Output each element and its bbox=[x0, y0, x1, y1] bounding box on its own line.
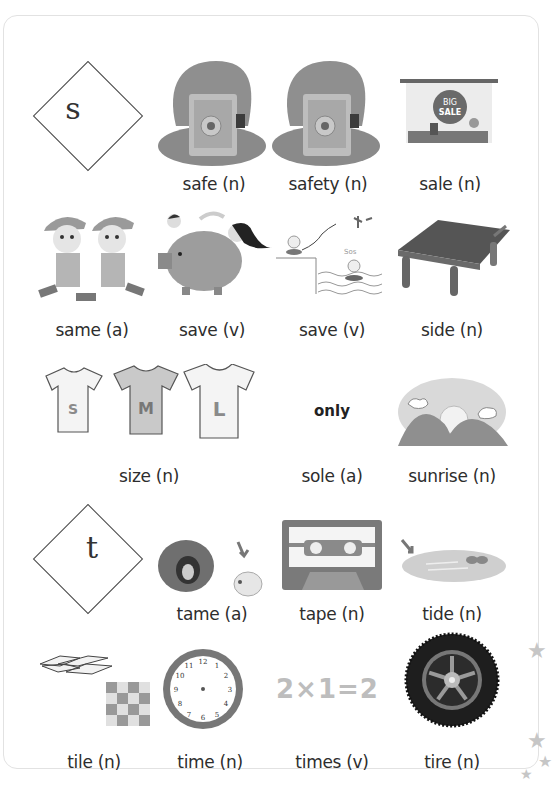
sole-hint-text: only bbox=[314, 402, 350, 420]
word-label: sale (n) bbox=[390, 174, 510, 194]
piggy-bank-icon bbox=[152, 209, 272, 299]
lion-to-sheep-icon bbox=[156, 536, 276, 606]
cassette-tape-icon bbox=[282, 520, 386, 594]
word-label: side (n) bbox=[392, 320, 512, 340]
safe-icon bbox=[156, 56, 268, 168]
svg-text:S: S bbox=[68, 401, 78, 417]
word-item-tile: tile (n) bbox=[34, 652, 154, 787]
word-label: tape (n) bbox=[272, 604, 392, 624]
svg-text:7: 7 bbox=[187, 711, 191, 719]
vocabulary-card: s safe (n) safety (n) bbox=[3, 15, 539, 769]
word-item-tide: tide (n) bbox=[392, 506, 512, 646]
word-item-tape: tape (n) bbox=[272, 506, 392, 646]
section-letter-t: t bbox=[62, 530, 122, 565]
word-label: same (a) bbox=[32, 320, 152, 340]
word-item-safety: safety (n) bbox=[268, 56, 388, 196]
svg-text:Sos: Sos bbox=[344, 248, 357, 256]
word-item-time: 12 1 2 3 4 5 6 7 8 9 10 11 time (n) bbox=[150, 652, 270, 787]
svg-text:L: L bbox=[213, 397, 226, 421]
word-item-times: 2×1=2 times (v) bbox=[272, 652, 392, 787]
word-label: safe (n) bbox=[154, 174, 274, 194]
svg-text:1: 1 bbox=[215, 662, 219, 670]
svg-text:4: 4 bbox=[224, 700, 229, 708]
word-label: size (n) bbox=[34, 466, 264, 486]
word-label: tire (n) bbox=[392, 752, 512, 772]
word-label: tame (a) bbox=[152, 604, 272, 624]
word-item-save-rescue: Sos save (v) bbox=[272, 206, 392, 346]
svg-text:9: 9 bbox=[174, 686, 178, 694]
word-label: sunrise (n) bbox=[392, 466, 512, 486]
word-item-sale: BIG SALE sale (n) bbox=[390, 56, 510, 196]
times-equation: 2×1=2 bbox=[276, 674, 379, 704]
svg-text:2: 2 bbox=[224, 672, 228, 680]
rescue-sos-icon: Sos bbox=[276, 214, 388, 299]
tiles-icon bbox=[36, 652, 156, 732]
safe-icon bbox=[270, 56, 382, 168]
svg-text:SALE: SALE bbox=[439, 108, 462, 117]
svg-text:12: 12 bbox=[199, 658, 208, 666]
tshirt-sizes-icon: S M L bbox=[34, 364, 264, 444]
clock-icon: 12 1 2 3 4 5 6 7 8 9 10 11 bbox=[160, 646, 246, 732]
tide-pool-icon bbox=[398, 536, 508, 586]
word-label: tile (n) bbox=[34, 752, 154, 772]
svg-text:3: 3 bbox=[228, 686, 232, 694]
svg-text:BIG: BIG bbox=[443, 98, 457, 107]
word-item-sole: only sole (a) bbox=[272, 358, 392, 498]
word-item-size: S M L size (n) bbox=[34, 358, 264, 498]
table-icon bbox=[394, 208, 512, 298]
big-sale-sign-icon: BIG SALE bbox=[400, 79, 500, 149]
word-label: sole (a) bbox=[272, 466, 392, 486]
section-letter-s: s bbox=[43, 91, 103, 126]
word-label: save (v) bbox=[152, 320, 272, 340]
svg-text:M: M bbox=[138, 399, 154, 418]
word-item-save-piggy: save (v) bbox=[152, 206, 272, 346]
word-label: tide (n) bbox=[392, 604, 512, 624]
word-item-same: same (a) bbox=[32, 206, 152, 346]
word-label: save (v) bbox=[272, 320, 392, 340]
star-icon: ★ bbox=[527, 638, 547, 663]
sunrise-icon bbox=[394, 376, 509, 451]
word-item-side: side (n) bbox=[392, 206, 512, 346]
star-icon: ★ bbox=[538, 752, 552, 771]
svg-text:10: 10 bbox=[176, 672, 185, 680]
word-label: times (v) bbox=[272, 752, 392, 772]
word-item-tire: tire (n) bbox=[392, 652, 512, 787]
word-label: safety (n) bbox=[268, 174, 388, 194]
twin-boys-icon bbox=[34, 209, 149, 304]
tire-icon bbox=[404, 632, 500, 728]
svg-text:6: 6 bbox=[201, 714, 206, 722]
word-item-tame: tame (a) bbox=[152, 506, 272, 646]
word-item-safe: safe (n) bbox=[154, 56, 274, 196]
svg-text:5: 5 bbox=[215, 711, 219, 719]
word-item-sunrise: sunrise (n) bbox=[392, 358, 512, 498]
word-label: time (n) bbox=[150, 752, 270, 772]
svg-text:8: 8 bbox=[178, 700, 182, 708]
star-icon: ★ bbox=[520, 766, 533, 782]
svg-text:11: 11 bbox=[185, 662, 194, 670]
star-icon: ★ bbox=[527, 728, 547, 753]
